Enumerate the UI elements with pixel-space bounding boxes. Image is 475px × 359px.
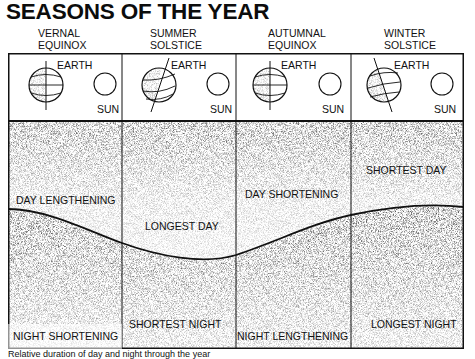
season-name-line2: EQUINOX <box>268 39 316 51</box>
season-header-autumnal: AUTUMNAL EQUINOX <box>268 28 326 51</box>
night-label: SHORTEST NIGHT <box>129 318 222 330</box>
day-label: DAY LENGTHENING <box>16 194 115 206</box>
sun-label: SUN <box>322 103 344 115</box>
season-name-line1: WINTER <box>384 27 425 39</box>
season-name-line2: EQUINOX <box>38 39 86 51</box>
earth-label: EARTH <box>394 59 429 71</box>
sun-icon <box>207 73 229 95</box>
season-header-summer: SUMMER SOLSTICE <box>150 28 202 51</box>
sun-icon <box>431 73 453 95</box>
night-label: NIGHT SHORTENING <box>13 330 118 342</box>
season-name-line1: VERNAL <box>38 27 80 39</box>
figure-caption: Relative duration of day and night throu… <box>8 349 210 359</box>
season-name-line1: SUMMER <box>150 27 197 39</box>
sun-icon <box>94 73 116 95</box>
season-name-line2: SOLSTICE <box>150 39 202 51</box>
night-label: NIGHT LENGTHENING <box>237 330 348 342</box>
season-header-vernal: VERNAL EQUINOX <box>38 28 86 51</box>
sun-label: SUN <box>210 103 232 115</box>
day-label: SHORTEST DAY <box>366 164 447 176</box>
earth-label: EARTH <box>281 59 316 71</box>
diagram-title: SEASONS OF THE YEAR <box>6 0 269 25</box>
sun-label: SUN <box>97 103 119 115</box>
earth-label: EARTH <box>57 59 92 71</box>
sun-icon <box>319 73 341 95</box>
seasons-diagram-frame: EARTH SUN EARTH SUN EARTH SUN <box>8 53 464 349</box>
season-name-line1: AUTUMNAL <box>268 27 326 39</box>
day-label: LONGEST DAY <box>145 220 219 232</box>
season-header-winter: WINTER SOLSTICE <box>384 28 436 51</box>
night-label: LONGEST NIGHT <box>371 318 457 330</box>
day-label: DAY SHORTENING <box>245 188 338 200</box>
season-name-line2: SOLSTICE <box>384 39 436 51</box>
earth-label: EARTH <box>171 59 206 71</box>
sun-label: SUN <box>434 103 456 115</box>
